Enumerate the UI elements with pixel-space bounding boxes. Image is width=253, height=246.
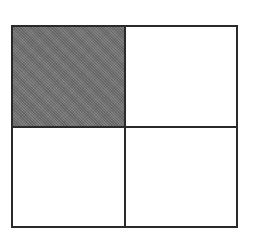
- cell-bottom-left: [13, 128, 124, 226]
- cell-top-right: [126, 27, 236, 126]
- horizontal-divider: [13, 126, 236, 128]
- cell-top-left-shaded: [13, 27, 124, 126]
- two-by-two-grid: [11, 25, 238, 228]
- cell-bottom-right: [126, 128, 236, 226]
